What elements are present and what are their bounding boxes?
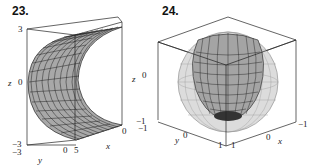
x-tick-0: 0 bbox=[122, 127, 127, 136]
x-axis-label: x bbox=[106, 142, 110, 151]
x-tick-5: 5 bbox=[74, 146, 79, 155]
x-axis-label: x bbox=[278, 137, 282, 146]
y-tick-neg1: −1 bbox=[138, 124, 148, 133]
figure-24: 24. bbox=[156, 0, 313, 167]
z-axis-label: z bbox=[132, 75, 136, 84]
y-tick-1: 1 bbox=[218, 141, 223, 150]
x-tick-neg1: −1 bbox=[298, 120, 308, 129]
z-tick-3: 3 bbox=[18, 25, 23, 34]
x-tick-0: 0 bbox=[266, 133, 271, 142]
z-axis-label: z bbox=[8, 79, 12, 88]
z-tick-0: 0 bbox=[142, 71, 147, 80]
z-tick-0: 0 bbox=[18, 78, 23, 87]
y-axis-label: y bbox=[38, 156, 42, 165]
y-tick-0: 0 bbox=[63, 146, 68, 155]
x-tick-1: 1 bbox=[231, 141, 236, 150]
y-tick-neg3: −3 bbox=[12, 148, 22, 157]
y-tick-0: 0 bbox=[183, 131, 188, 140]
y-axis-label: y bbox=[175, 136, 179, 145]
